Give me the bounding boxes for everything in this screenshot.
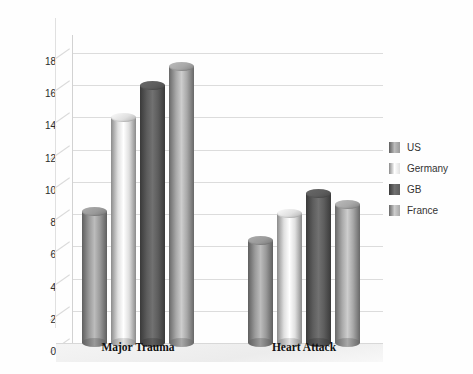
legend-item: France: [389, 200, 448, 221]
bar-body: [140, 85, 165, 343]
bar: [277, 209, 302, 348]
bar: [335, 200, 360, 347]
bar-top-ellipse: [277, 209, 302, 218]
bar: [111, 113, 136, 347]
bar-body: [169, 66, 194, 343]
bar: [248, 236, 273, 347]
gridline: [73, 85, 383, 86]
bar-body: [306, 193, 331, 343]
legend-label: US: [407, 142, 421, 153]
y-axis-back-line: [55, 18, 56, 328]
bar-body: [248, 240, 273, 343]
y-axis-line: [72, 35, 73, 345]
y-tick-label: 0: [22, 347, 56, 357]
legend-swatch: [389, 142, 400, 153]
y-tick-label: 4: [22, 283, 56, 293]
x-axis-category-label: Heart Attack: [244, 341, 364, 353]
bar: [140, 81, 165, 347]
bar-body: [82, 211, 107, 343]
y-tick-label: 2: [22, 315, 56, 325]
legend-label: Germany: [407, 163, 448, 174]
bar-chart: 024681012141618 Major TraumaHeart Attack…: [0, 0, 473, 374]
legend-swatch: [389, 184, 400, 195]
legend-item: US: [389, 137, 448, 158]
legend: USGermanyGBFrance: [389, 137, 448, 221]
legend-label: France: [407, 205, 438, 216]
bar: [82, 207, 107, 347]
y-tick-label: 10: [22, 186, 56, 196]
legend-swatch: [389, 205, 400, 216]
bar-body: [335, 204, 360, 343]
x-axis-category-label: Major Trauma: [78, 341, 198, 353]
legend-label: GB: [407, 184, 421, 195]
y-tick-label: 16: [22, 89, 56, 99]
bar-top-ellipse: [169, 62, 194, 71]
bar-top-ellipse: [248, 236, 273, 245]
y-tick-label: 12: [22, 154, 56, 164]
bar-body: [277, 213, 302, 344]
bar: [169, 62, 194, 347]
y-tick-label: 6: [22, 250, 56, 260]
y-tick-label: 14: [22, 121, 56, 131]
gridline: [73, 53, 383, 54]
bar: [306, 189, 331, 347]
bar-body: [111, 117, 136, 343]
y-tick-label: 18: [22, 57, 56, 67]
y-tick-label: 8: [22, 218, 56, 228]
bar-top-ellipse: [82, 207, 107, 216]
legend-item: Germany: [389, 158, 448, 179]
legend-item: GB: [389, 179, 448, 200]
legend-swatch: [389, 163, 400, 174]
